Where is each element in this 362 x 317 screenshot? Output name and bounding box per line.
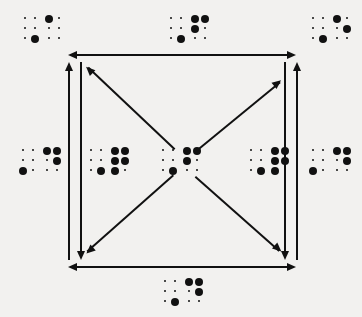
dot-small-c1r1 <box>24 17 26 19</box>
dot-large-c1r1 <box>185 278 193 286</box>
dot-small-c1r3 <box>312 37 314 39</box>
dot-large-c1r1 <box>43 147 51 155</box>
dot-small-c2r2 <box>260 159 262 161</box>
dot-large-c1r2 <box>271 157 279 165</box>
dot-small-c2r3 <box>284 169 286 171</box>
dot-small-c1r1 <box>162 149 164 151</box>
dot-small-c2r2 <box>58 27 60 29</box>
dot-large-c1r2 <box>111 157 119 165</box>
dot-small-c2r1 <box>260 149 262 151</box>
dot-small-c1r2 <box>24 27 26 29</box>
dot-small-c1r1 <box>170 17 172 19</box>
dot-small-c1r2 <box>336 27 338 29</box>
glyph-right-outer-cell-1 <box>310 146 328 176</box>
dot-large-c1r2 <box>183 157 191 165</box>
glyph-top-left <box>22 14 64 44</box>
arrow-bottom-head-right <box>287 263 296 271</box>
dot-large-c2r1 <box>53 147 61 155</box>
glyph-right-inner-cell-2 <box>272 146 290 176</box>
dot-small-c1r3 <box>170 37 172 39</box>
arrow-se-shaft <box>195 176 280 251</box>
dot-small-c2r3 <box>346 169 348 171</box>
dot-large-c1r3 <box>19 167 27 175</box>
dot-small-c1r1 <box>90 149 92 151</box>
dot-large-c1r2 <box>191 25 199 33</box>
arrow-ne-shaft <box>196 81 280 151</box>
dot-small-c1r1 <box>164 280 166 282</box>
dot-large-c2r3 <box>31 35 39 43</box>
dot-small-c2r1 <box>174 280 176 282</box>
glyph-top-center-cell-1 <box>168 14 186 44</box>
glyph-bottom-center-cell-1 <box>162 277 180 307</box>
arrow-bottom-shaft <box>76 266 288 268</box>
dot-small-c2r3 <box>124 169 126 171</box>
glyph-bottom-center-cell-2 <box>186 277 204 307</box>
dot-small-c2r2 <box>180 27 182 29</box>
dot-large-c2r3 <box>97 167 105 175</box>
glyph-center <box>160 146 202 176</box>
dot-small-c2r1 <box>180 17 182 19</box>
dot-small-c2r1 <box>32 149 34 151</box>
glyph-top-right <box>310 14 352 44</box>
dot-small-c1r2 <box>48 27 50 29</box>
dot-small-c1r2 <box>250 159 252 161</box>
glyph-right-outer-cell-2 <box>334 146 352 176</box>
dot-large-c2r1 <box>343 147 351 155</box>
dot-small-c2r3 <box>32 169 34 171</box>
dot-small-c2r1 <box>172 149 174 151</box>
arrow-left-down-head <box>77 251 85 260</box>
dot-large-c2r2 <box>195 288 203 296</box>
arrow-top-shaft <box>76 54 288 56</box>
glyph-left-inner-cell-2 <box>112 146 130 176</box>
dot-small-c1r3 <box>24 37 26 39</box>
dot-small-c2r1 <box>58 17 60 19</box>
dot-small-c1r2 <box>170 27 172 29</box>
glyph-center-cell-2 <box>184 146 202 176</box>
arrow-bottom-head-left <box>68 263 77 271</box>
dot-large-c2r3 <box>257 167 265 175</box>
dot-large-c2r2 <box>343 25 351 33</box>
dot-small-c2r1 <box>100 149 102 151</box>
glyph-left-outer-cell-1 <box>20 146 38 176</box>
dot-small-c1r3 <box>90 169 92 171</box>
arrow-right-up-shaft <box>296 70 298 260</box>
dot-small-c2r3 <box>56 169 58 171</box>
dot-small-c2r3 <box>58 37 60 39</box>
dot-large-c2r1 <box>195 278 203 286</box>
arrow-nw-shaft <box>88 67 176 150</box>
dot-small-c1r2 <box>336 159 338 161</box>
dot-large-c2r1 <box>281 147 289 155</box>
dot-small-c1r3 <box>48 37 50 39</box>
dot-small-c1r2 <box>162 159 164 161</box>
dot-small-c1r3 <box>194 37 196 39</box>
glyph-left-outer-cell-2 <box>44 146 62 176</box>
dot-small-c1r2 <box>46 159 48 161</box>
dot-large-c1r3 <box>111 167 119 175</box>
dot-small-c1r3 <box>164 300 166 302</box>
glyph-top-left-cell-2 <box>46 14 64 44</box>
arrow-sw-shaft <box>87 175 174 252</box>
dot-small-c2r2 <box>322 27 324 29</box>
dot-small-c1r2 <box>164 290 166 292</box>
dot-small-c2r2 <box>172 159 174 161</box>
dot-small-c2r3 <box>322 169 324 171</box>
arrow-right-down-head <box>281 251 289 260</box>
dot-small-c1r2 <box>188 290 190 292</box>
dot-large-c2r1 <box>121 147 129 155</box>
glyph-right-outer <box>310 146 352 176</box>
dot-small-c2r3 <box>204 37 206 39</box>
dot-small-c2r3 <box>196 169 198 171</box>
dot-small-c1r2 <box>312 27 314 29</box>
dot-small-c2r1 <box>346 17 348 19</box>
arrow-left-down-shaft <box>80 62 82 252</box>
dot-large-c1r3 <box>271 167 279 175</box>
arrow-left-up-head <box>65 62 73 71</box>
dot-small-c2r3 <box>346 37 348 39</box>
dot-large-c2r2 <box>53 157 61 165</box>
dot-large-c1r1 <box>271 147 279 155</box>
glyph-left-outer <box>20 146 62 176</box>
dot-small-c1r3 <box>188 300 190 302</box>
dot-small-c1r3 <box>250 169 252 171</box>
dot-small-c1r2 <box>312 159 314 161</box>
dot-small-c1r3 <box>46 169 48 171</box>
